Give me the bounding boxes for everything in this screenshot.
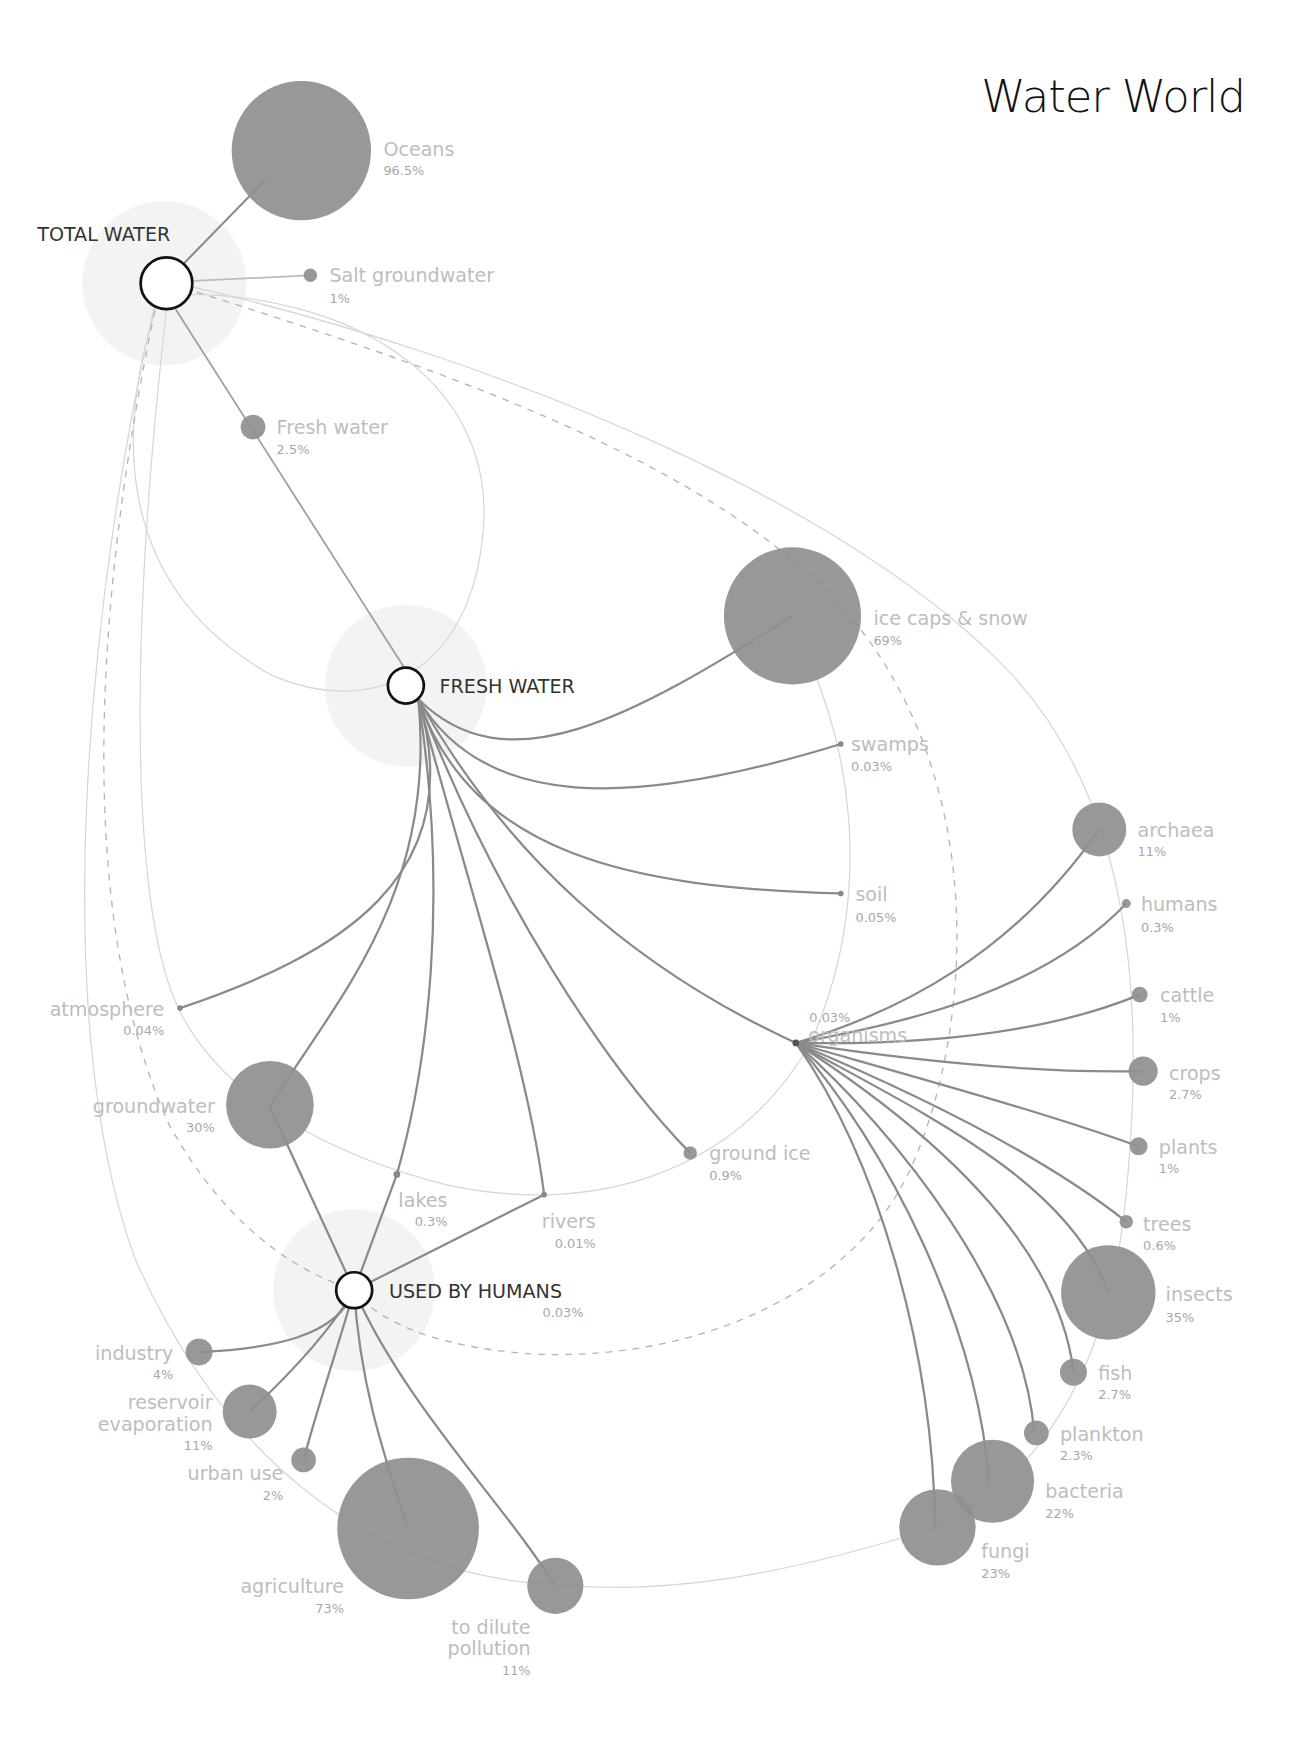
- swamps-label: swamps: [851, 733, 929, 756]
- swamps-pct: 0.03%: [851, 759, 892, 774]
- fungi-circle: [899, 1489, 975, 1565]
- used-by-humans-pct: 0.03%: [542, 1305, 583, 1320]
- ice-caps-circle: [724, 547, 861, 684]
- atmosphere-label: atmosphere: [50, 998, 165, 1021]
- fresh-water-circle: [241, 415, 266, 440]
- bacteria-label: bacteria: [1045, 1480, 1123, 1503]
- ground-ice-dot: [683, 1146, 696, 1159]
- bacteria-pct: 22%: [1045, 1506, 1074, 1521]
- crops-circle: [1129, 1056, 1158, 1085]
- reservoir-pct: 11%: [184, 1438, 213, 1453]
- lakes-pct: 0.3%: [415, 1214, 448, 1229]
- organisms-label: organisms: [808, 1024, 907, 1047]
- cattle-dot: [1132, 987, 1148, 1003]
- total-water-hub-label: TOTAL WATER: [36, 223, 170, 246]
- atmosphere-dot: [177, 1005, 183, 1011]
- fresh-water-label: Fresh water: [277, 416, 388, 439]
- dilute-pollution-circle: [527, 1558, 583, 1614]
- rivers-label: rivers: [542, 1210, 596, 1233]
- fungi-pct: 23%: [981, 1566, 1010, 1581]
- diagram-title: Water World: [981, 70, 1245, 123]
- archaea-circle: [1072, 802, 1126, 856]
- reservoir-label-line1: reservoir: [128, 1391, 213, 1414]
- fresh-water-branches: [180, 616, 841, 1290]
- fresh-water-hub-label: FRESH WATER: [440, 675, 575, 698]
- ground-ice-pct: 0.9%: [709, 1168, 742, 1183]
- crops-label: crops: [1169, 1062, 1221, 1085]
- archaea-label: archaea: [1138, 819, 1215, 842]
- trees-pct: 0.6%: [1143, 1238, 1176, 1253]
- trees-dot: [1120, 1215, 1133, 1228]
- urban-use-label: urban use: [188, 1462, 284, 1485]
- organisms-node: [792, 1040, 799, 1047]
- reservoir-evaporation-circle: [223, 1385, 277, 1439]
- used-by-humans-hub-label: USED BY HUMANS: [389, 1280, 562, 1303]
- rivers-dot: [541, 1192, 547, 1198]
- cattle-label: cattle: [1160, 984, 1214, 1007]
- swamps-dot: [838, 741, 844, 747]
- industry-label: industry: [95, 1342, 173, 1365]
- organisms-pct: 0.03%: [809, 1010, 850, 1025]
- plankton-label: plankton: [1060, 1423, 1144, 1446]
- humans-pct: 0.3%: [1141, 920, 1174, 935]
- urban-use-pct: 2%: [263, 1488, 283, 1503]
- archaea-pct: 11%: [1138, 844, 1167, 859]
- groundwater-pct: 30%: [186, 1120, 215, 1135]
- plants-pct: 1%: [1159, 1161, 1179, 1176]
- total-water-hub: [141, 257, 193, 309]
- lakes-dot: [394, 1171, 401, 1178]
- cattle-pct: 1%: [1160, 1010, 1180, 1025]
- agriculture-circle: [337, 1458, 479, 1600]
- insects-pct: 35%: [1166, 1310, 1195, 1325]
- agriculture-label: agriculture: [240, 1575, 344, 1598]
- fish-pct: 2.7%: [1098, 1387, 1131, 1402]
- crops-pct: 2.7%: [1169, 1087, 1202, 1102]
- fish-label: fish: [1098, 1362, 1132, 1385]
- atmosphere-pct: 0.04%: [123, 1023, 164, 1038]
- plants-dot: [1130, 1137, 1148, 1155]
- humans-label: humans: [1141, 893, 1218, 916]
- water-world-diagram: Water World Oceans 96.5% Salt groundwate…: [0, 0, 1304, 1751]
- fresh-water-hub: [388, 668, 424, 704]
- industry-circle: [186, 1339, 213, 1366]
- oceans-circle: [232, 81, 371, 220]
- used-by-humans-hub: [336, 1272, 372, 1308]
- insects-label: insects: [1166, 1283, 1233, 1306]
- plankton-pct: 2.3%: [1060, 1448, 1093, 1463]
- groundwater-circle: [226, 1061, 314, 1149]
- humans-dot: [1122, 899, 1131, 908]
- soil-label: soil: [855, 883, 887, 906]
- fungi-label: fungi: [981, 1540, 1029, 1563]
- trees-label: trees: [1143, 1213, 1191, 1236]
- lakes-label: lakes: [398, 1189, 447, 1212]
- fish-circle: [1060, 1359, 1087, 1386]
- rivers-pct: 0.01%: [555, 1236, 596, 1251]
- insects-circle: [1061, 1245, 1155, 1339]
- dilute-pollution-label-line1: to dilute: [451, 1616, 530, 1639]
- industry-pct: 4%: [153, 1367, 173, 1382]
- salt-groundwater-label: Salt groundwater: [329, 264, 494, 287]
- oceans-label: Oceans: [383, 138, 454, 161]
- dilute-pollution-label-line2: pollution: [448, 1637, 531, 1660]
- plants-label: plants: [1159, 1136, 1218, 1159]
- ground-ice-label: ground ice: [709, 1142, 810, 1165]
- oceans-pct: 96.5%: [383, 163, 424, 178]
- salt-groundwater-dot: [304, 269, 317, 282]
- reservoir-label-line2: evaporation: [98, 1413, 213, 1436]
- soil-pct: 0.05%: [855, 910, 896, 925]
- dilute-pollution-pct: 11%: [502, 1663, 531, 1678]
- fresh-water-pct: 2.5%: [277, 442, 310, 457]
- urban-use-circle: [291, 1448, 316, 1473]
- agriculture-pct: 73%: [315, 1601, 344, 1616]
- soil-dot: [838, 891, 844, 897]
- plankton-circle: [1024, 1421, 1049, 1446]
- ice-caps-label: ice caps & snow: [873, 607, 1027, 630]
- ice-caps-pct: 69%: [873, 633, 902, 648]
- salt-groundwater-pct: 1%: [329, 291, 349, 306]
- groundwater-label: groundwater: [93, 1095, 215, 1118]
